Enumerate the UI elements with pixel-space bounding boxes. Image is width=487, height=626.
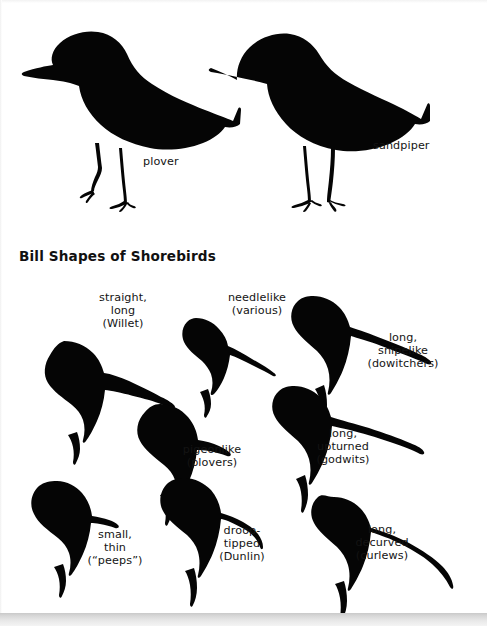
figure-page: Bill Shapes of Shorebirds plover sandpip… [0, 0, 487, 626]
plover-silhouette [22, 31, 241, 212]
page-bottom-edge [0, 613, 487, 626]
needlelike-head-silhouette [182, 318, 275, 418]
sandpiper-silhouette [209, 34, 430, 213]
label-willet: straight, long (Willet) [78, 291, 168, 331]
label-curlews: long, decurved (curlews) [339, 523, 425, 563]
label-peeps: small, thin (“peeps”) [82, 528, 148, 568]
page-title: Bill Shapes of Shorebirds [19, 248, 216, 264]
label-plovers: pigeonlike (plovers) [172, 443, 252, 469]
label-plover: plover [143, 155, 179, 168]
label-needlelike: needlelike (various) [215, 291, 299, 317]
label-sandpiper: sandpiper [373, 139, 430, 152]
label-dowitchers: long, snipelike (dowitchers) [351, 331, 455, 371]
label-godwits: long, upturned (godwits) [305, 427, 381, 467]
label-dunlin: droop- tipped (Dunlin) [206, 524, 278, 564]
